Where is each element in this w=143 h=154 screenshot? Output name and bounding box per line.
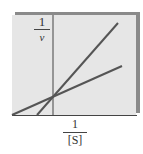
x-axis-label: 1 [S] bbox=[63, 118, 87, 147]
y-label-denominator: v bbox=[32, 31, 52, 43]
plot-panel bbox=[12, 15, 136, 115]
y-axis-label: 1 v bbox=[32, 15, 52, 43]
x-label-denominator: [S] bbox=[63, 134, 87, 147]
y-label-fraction-bar bbox=[34, 29, 50, 30]
y-label-numerator: 1 bbox=[32, 15, 52, 28]
x-label-numerator: 1 bbox=[63, 118, 87, 131]
